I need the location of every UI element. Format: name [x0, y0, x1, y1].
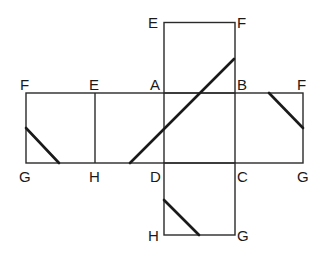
cube-net-canvas: E F F E A B F G H D C G H G — [0, 0, 325, 257]
label-g-bottom: G — [237, 227, 249, 244]
cut-line-right — [269, 93, 303, 128]
face-bottom-dcgh — [164, 163, 235, 235]
label-e-mid: E — [89, 76, 99, 93]
label-a: A — [150, 76, 160, 93]
label-h-bottom: H — [148, 227, 159, 244]
label-e-top: E — [148, 14, 158, 31]
label-g-right: G — [297, 168, 309, 185]
label-f-right: F — [297, 76, 306, 93]
cut-line-bottom — [164, 200, 199, 235]
label-f-top: F — [237, 14, 246, 31]
face-top-efba — [164, 23, 235, 94]
label-f-left: F — [20, 76, 29, 93]
cut-line-main — [130, 59, 234, 163]
cube-net-diagram: E F F E A B F G H D C G H G — [0, 0, 325, 257]
label-g-left: G — [19, 168, 31, 185]
label-h-mid: H — [89, 168, 100, 185]
label-d: D — [150, 168, 161, 185]
label-c: C — [237, 168, 248, 185]
cut-line-left — [26, 128, 59, 163]
label-b: B — [237, 76, 247, 93]
